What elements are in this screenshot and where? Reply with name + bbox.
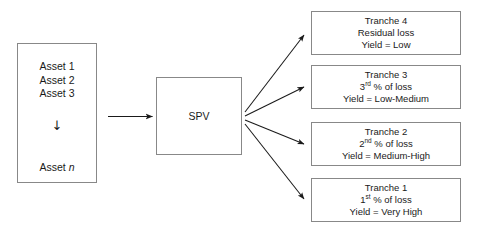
tranche-2-yield: Yield = Medium-High [342, 150, 430, 162]
tranche-1-title: Tranche 1 [365, 182, 407, 194]
down-arrow-icon: ↓ [52, 119, 63, 132]
tranche-4-title: Tranche 4 [365, 15, 407, 27]
asset-line-n-variable: n [69, 161, 75, 173]
tranche-2-loss-suffix: % of loss [372, 138, 413, 149]
asset-pool-box: Asset 1 Asset 2 Asset 3 ↓ Asset n [17, 43, 97, 183]
tranche-box-4: Tranche 4 Residual loss Yield = Low [311, 11, 461, 55]
arrow-spv-to-tranche-2 [245, 120, 304, 144]
asset-line-1: Asset 1 [39, 60, 74, 74]
spv-box: SPV [156, 77, 242, 155]
asset-line-3: Asset 3 [39, 87, 74, 101]
tranche-1-loss: 1st % of loss [360, 194, 412, 206]
tranche-3-yield: Yield = Low-Medium [343, 93, 429, 105]
asset-line-n-prefix: Asset [39, 161, 68, 173]
tranche-2-loss: 2nd % of loss [359, 138, 413, 150]
tranche-4-loss: Residual loss [358, 27, 415, 39]
tranche-2-loss-ordinal: nd [364, 137, 371, 144]
asset-line-2: Asset 2 [39, 74, 74, 88]
tranche-4-yield: Yield = Low [361, 39, 410, 51]
arrow-spv-to-tranche-3 [245, 87, 304, 116]
tranche-3-loss-suffix: % of loss [371, 81, 412, 92]
tranche-box-3: Tranche 3 3rd % of loss Yield = Low-Medi… [311, 65, 461, 109]
asset-line-n: Asset n [39, 161, 74, 175]
tranche-box-2: Tranche 2 2nd % of loss Yield = Medium-H… [311, 122, 461, 166]
tranche-1-yield: Yield = Very High [350, 206, 423, 218]
tranche-3-title: Tranche 3 [365, 69, 407, 81]
arrow-spv-to-tranche-4 [245, 35, 304, 112]
spv-label: SPV [188, 110, 209, 123]
tranche-1-loss-suffix: % of loss [371, 194, 412, 205]
tranche-box-1: Tranche 1 1st % of loss Yield = Very Hig… [311, 178, 461, 222]
arrow-spv-to-tranche-1 [245, 124, 304, 199]
tranche-3-loss: 3rd % of loss [360, 81, 412, 93]
tranche-4-loss-prefix: Residual loss [358, 27, 415, 38]
securitisation-diagram: Asset 1 Asset 2 Asset 3 ↓ Asset n SPV Tr… [0, 0, 480, 231]
